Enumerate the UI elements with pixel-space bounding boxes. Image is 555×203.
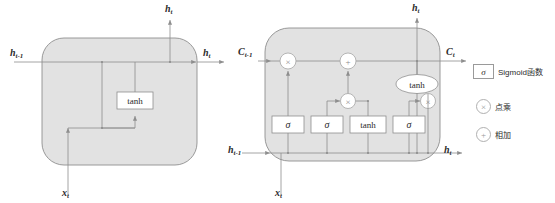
lstm-cell-add-glyph: + — [345, 57, 350, 67]
rnn-x-label: xt — [62, 188, 69, 198]
lstm-input-multiply-glyph: × — [345, 97, 350, 107]
lstm-dot-cellline — [416, 60, 418, 62]
lstm-cell-body — [265, 28, 440, 161]
legend-item-multiply: × 点乘 — [476, 99, 511, 114]
figure-canvas: × + × × tanh σ σ tanh σ tanh ht-1 ht ht … — [0, 0, 555, 203]
lstm-h-top-label: ht — [412, 3, 420, 13]
lstm-dot-output — [408, 152, 410, 154]
lstm-h-prev-label: ht-1 — [228, 145, 241, 155]
rnn-h-prev-label: ht-1 — [10, 48, 23, 58]
lstm-dot-outmult — [427, 152, 429, 154]
lstm-output-multiply-glyph: × — [425, 97, 430, 107]
rnn-tanh-label: tanh — [127, 96, 143, 106]
legend-multiply-label: 点乘 — [495, 101, 511, 112]
lstm-dot-candidate — [367, 152, 369, 154]
lstm-x-label: xt — [275, 188, 282, 198]
lstm-cell-tanh-label: tanh — [409, 80, 425, 90]
legend-add-label: 相加 — [495, 129, 511, 140]
lstm-c-next-label: Ct — [446, 47, 455, 57]
rnn-h-out-label: ht — [203, 48, 211, 58]
lstm-dot-candpath — [367, 100, 369, 102]
diagram-vector-layer: × + × × tanh σ σ tanh σ tanh — [0, 0, 555, 203]
legend-sigmoid-icon: σ — [473, 64, 494, 79]
lstm-forget-multiply-glyph: × — [285, 57, 290, 67]
legend-item-add: + 相加 — [476, 127, 511, 142]
lstm-c-prev-label: Ct-1 — [238, 47, 252, 57]
lstm-cell-outline — [265, 28, 440, 161]
rnn-h-top-label: ht — [165, 4, 173, 14]
rnn-junction-dot-2 — [169, 61, 171, 63]
rnn-junction-dot-1 — [101, 61, 103, 63]
lstm-h-next-label: ht — [444, 145, 452, 155]
rnn-junction-dot-3 — [101, 127, 103, 129]
lstm-dot-input — [326, 152, 328, 154]
lstm-dot-htop — [416, 152, 418, 154]
legend-sigmoid-label: Sigmoid函数 — [498, 66, 543, 77]
lstm-candidate-gate-label: tanh — [360, 120, 376, 130]
legend-item-sigmoid: σ Sigmoid函数 — [473, 64, 543, 79]
legend-add-icon: + — [476, 127, 491, 142]
lstm-dot-forget — [287, 152, 289, 154]
legend-multiply-icon: × — [476, 99, 491, 114]
